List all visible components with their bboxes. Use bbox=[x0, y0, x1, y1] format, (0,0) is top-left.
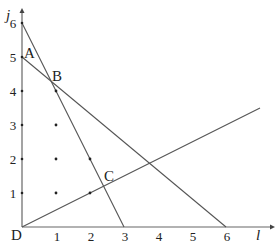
x-tick-4: 4 bbox=[156, 229, 163, 244]
point-label-a: A bbox=[24, 45, 35, 61]
x-tick-6: 6 bbox=[224, 229, 231, 244]
point-label-c: C bbox=[104, 168, 114, 184]
x-tick-1: 1 bbox=[54, 229, 61, 244]
y-tick-3: 3 bbox=[10, 118, 17, 133]
point-label-b: B bbox=[52, 68, 62, 84]
point-label-d: D bbox=[11, 227, 22, 243]
line-6-to-3 bbox=[22, 23, 124, 227]
x-tick-2: 2 bbox=[88, 229, 95, 244]
y-tick-5: 5 bbox=[10, 50, 17, 65]
y-tick-1: 1 bbox=[10, 186, 17, 201]
diagram-canvas: 1 2 3 4 5 6 1 2 3 4 5 6 j l A B C D bbox=[0, 0, 275, 244]
y-axis-label: j bbox=[4, 7, 10, 23]
y-tick-6: 6 bbox=[10, 16, 17, 31]
lattice-dots bbox=[55, 90, 92, 195]
y-tick-2: 2 bbox=[10, 152, 17, 167]
y-axis-arrow-icon bbox=[20, 8, 25, 13]
y-tick-4: 4 bbox=[10, 84, 17, 99]
x-tick-5: 5 bbox=[190, 229, 197, 244]
line-origin-half-slope bbox=[22, 108, 260, 227]
x-axis-arrow-icon bbox=[270, 225, 275, 230]
x-axis-label: l bbox=[256, 227, 260, 243]
x-tick-3: 3 bbox=[122, 229, 129, 244]
